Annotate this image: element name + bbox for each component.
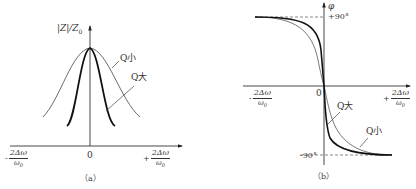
panel-a-label-q-small: Q小 (120, 54, 136, 63)
panel-b-origin-label: 0 (316, 89, 322, 98)
panel-a-label-q-large: Q大 (131, 73, 147, 82)
panel-b-caption: （b） (313, 170, 334, 181)
panel-a-curve-q-large (67, 48, 115, 126)
panel-b-y-axis-label: φ (328, 2, 334, 11)
panel-b-leader-q-small (360, 138, 368, 147)
panel-b-x-left-tick: - 2Δωω0 (249, 89, 272, 108)
panel-b-label-q-large: Q大 (337, 102, 353, 111)
panel-b-minus-90-label: -90° (300, 152, 317, 160)
panel-a-x-right-tick: + 2Δωω0 (143, 149, 170, 168)
panel-a-leader-q-small (112, 61, 119, 68)
panel-a-axes (10, 26, 182, 146)
panel-b-plus-90-label: +90° (328, 13, 349, 21)
panel-a-leader-q-large (106, 86, 134, 111)
panel-b-label-q-small: Q小 (366, 127, 382, 136)
panel-a-origin-label: 0 (87, 151, 93, 160)
panel-a-y-axis-label: |Z|/Z0 (57, 24, 82, 35)
panel-b-x-right-tick: + 2Δωω0 (383, 89, 410, 108)
panel-a-caption: （a） (80, 172, 101, 183)
panel-a-x-left-tick: - 2Δωω0 (5, 149, 28, 168)
panel-b-axes (243, 3, 410, 165)
